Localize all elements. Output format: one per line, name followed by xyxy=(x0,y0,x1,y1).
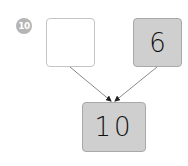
right-arrow xyxy=(115,67,157,101)
left-arrow xyxy=(70,67,111,101)
left-part-answer-box[interactable] xyxy=(46,18,95,67)
right-part-box: 6 xyxy=(133,18,182,67)
whole-total-box: 10 xyxy=(82,102,146,152)
problem-number-badge: 10 xyxy=(16,18,32,34)
